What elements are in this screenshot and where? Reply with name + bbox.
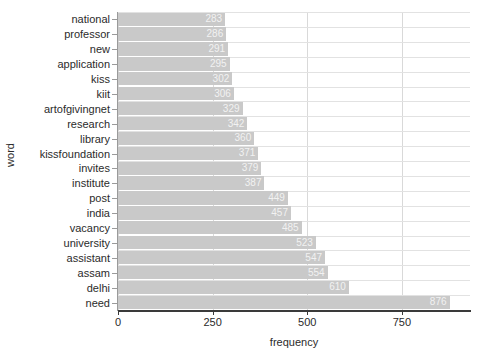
bar-row: kiss302 xyxy=(118,72,470,87)
y-tick-label: kissfoundation xyxy=(40,148,110,159)
y-tick-label: institute xyxy=(72,178,110,189)
bar: 371 xyxy=(118,147,258,160)
bar: 457 xyxy=(118,206,291,219)
bar-row: artofgivingnet329 xyxy=(118,101,470,116)
bar: 329 xyxy=(118,102,243,115)
bar-row: invites379 xyxy=(118,161,470,176)
y-tick-label: university xyxy=(64,237,110,248)
x-tick xyxy=(307,310,308,315)
bar: 876 xyxy=(118,296,450,309)
bar-value-label: 342 xyxy=(228,119,245,129)
bar: 379 xyxy=(118,162,261,175)
bar-value-label: 876 xyxy=(430,297,447,307)
bar: 485 xyxy=(118,221,302,234)
y-tick-label: vacancy xyxy=(70,223,110,234)
bar-row: delhi610 xyxy=(118,280,470,295)
bar-row: kiit306 xyxy=(118,87,470,102)
bar: 360 xyxy=(118,132,254,145)
y-tick-label: invites xyxy=(79,163,110,174)
y-tick-label: national xyxy=(71,14,110,25)
bar-value-label: 306 xyxy=(214,89,231,99)
plot-area: national283professor286new291application… xyxy=(118,12,470,310)
y-tick-label: kiit xyxy=(97,88,110,99)
y-tick-label: delhi xyxy=(87,282,110,293)
x-axis-line xyxy=(118,310,471,312)
bar-chart-figure: word national283professor286new291applic… xyxy=(0,0,487,360)
bar: 283 xyxy=(118,13,225,26)
bar-row: assistant547 xyxy=(118,250,470,265)
y-tick-label: post xyxy=(89,193,110,204)
bar-value-label: 387 xyxy=(245,178,262,188)
bar-value-label: 457 xyxy=(271,208,288,218)
y-tick-label: assam xyxy=(78,267,110,278)
bar-row: assam554 xyxy=(118,265,470,280)
bar-row: application295 xyxy=(118,57,470,72)
bar-value-label: 286 xyxy=(207,29,224,39)
y-tick-label: kiss xyxy=(91,74,110,85)
bar-row: new291 xyxy=(118,42,470,57)
bar-row: kissfoundation371 xyxy=(118,146,470,161)
bar: 295 xyxy=(118,57,230,70)
bar-value-label: 554 xyxy=(308,268,325,278)
bar: 291 xyxy=(118,42,228,55)
y-tick-label: new xyxy=(90,44,110,55)
x-tick-label: 0 xyxy=(115,316,121,328)
bar-value-label: 295 xyxy=(210,59,227,69)
bar: 610 xyxy=(118,281,349,294)
y-tick-label: application xyxy=(57,59,110,70)
bar-value-label: 291 xyxy=(208,44,225,54)
bar-value-label: 449 xyxy=(268,193,285,203)
bar: 547 xyxy=(118,251,325,264)
y-axis-title: word xyxy=(2,0,18,310)
bar: 523 xyxy=(118,236,316,249)
bar-value-label: 379 xyxy=(242,163,259,173)
bar-value-label: 485 xyxy=(282,223,299,233)
bar-row: university523 xyxy=(118,236,470,251)
y-tick-label: research xyxy=(67,118,110,129)
bar-value-label: 283 xyxy=(205,14,222,24)
x-tick-label: 500 xyxy=(298,316,316,328)
y-tick-label: professor xyxy=(64,29,110,40)
bar: 387 xyxy=(118,176,264,189)
bar-value-label: 302 xyxy=(213,74,230,84)
bar-row: research342 xyxy=(118,116,470,131)
bar: 342 xyxy=(118,117,247,130)
bar-row: library360 xyxy=(118,131,470,146)
bar: 302 xyxy=(118,72,232,85)
x-tick xyxy=(402,310,403,315)
y-tick-label: artofgivingnet xyxy=(44,103,110,114)
bar: 554 xyxy=(118,266,328,279)
bar-value-label: 371 xyxy=(239,148,256,158)
x-tick-label: 250 xyxy=(203,316,221,328)
y-tick-label: assistant xyxy=(67,252,110,263)
bar-value-label: 610 xyxy=(329,282,346,292)
y-tick-label: library xyxy=(80,133,110,144)
bar-row: institute387 xyxy=(118,176,470,191)
x-tick xyxy=(118,310,119,315)
x-tick xyxy=(213,310,214,315)
bar-row: need876 xyxy=(118,295,470,310)
bar-row: national283 xyxy=(118,12,470,27)
bar-value-label: 360 xyxy=(235,133,252,143)
bar-value-label: 329 xyxy=(223,104,240,114)
bar-row: india457 xyxy=(118,206,470,221)
bar: 449 xyxy=(118,191,288,204)
y-tick-label: india xyxy=(87,208,110,219)
bar-value-label: 523 xyxy=(296,238,313,248)
bar-value-label: 547 xyxy=(305,253,322,263)
bar-row: professor286 xyxy=(118,27,470,42)
y-tick-label: need xyxy=(86,297,110,308)
y-axis-title-text: word xyxy=(4,143,16,167)
bar: 306 xyxy=(118,87,234,100)
x-axis-title: frequency xyxy=(118,336,470,348)
bar-row: post449 xyxy=(118,191,470,206)
bar: 286 xyxy=(118,27,226,40)
bar-row: vacancy485 xyxy=(118,221,470,236)
x-tick-label: 750 xyxy=(393,316,411,328)
